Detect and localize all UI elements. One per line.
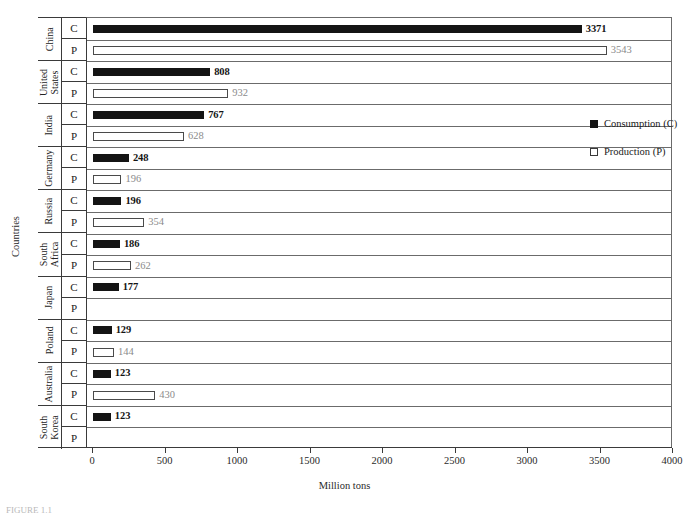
- bar-row-production: 196: [87, 169, 141, 191]
- bar-row-consumption: 248: [87, 147, 148, 169]
- category-label-text: Poland: [44, 327, 55, 355]
- row-separator: [87, 298, 671, 299]
- category-label-text: Japan: [44, 286, 55, 309]
- series-code-column: CP: [62, 406, 86, 449]
- category-row-japan: JapanCP: [38, 277, 86, 320]
- x-axis-tick: [92, 448, 93, 453]
- bar-value-label: 123: [115, 368, 130, 379]
- bar-consumption[interactable]: [93, 111, 204, 119]
- bar-value-label: 767: [208, 110, 223, 121]
- series-code-consumption: C: [62, 406, 86, 428]
- category-label: Australia: [38, 363, 62, 405]
- bar-row-production: 430: [87, 384, 175, 406]
- y-axis-title: Countries: [2, 188, 28, 284]
- bar-row-consumption: 196: [87, 190, 141, 212]
- legend-label-production: Production (P): [604, 146, 666, 157]
- bar-row-consumption: 177: [87, 277, 138, 299]
- category-label-text: South Africa: [39, 242, 60, 268]
- x-axis-tick: [672, 448, 673, 453]
- bar-consumption[interactable]: [93, 240, 120, 248]
- row-separator: [87, 277, 671, 278]
- category-label: Japan: [38, 277, 62, 319]
- category-label: Germany: [38, 147, 62, 189]
- bar-consumption[interactable]: [93, 283, 119, 291]
- category-row-india: IndiaCP: [38, 104, 86, 147]
- x-axis-tick: [237, 448, 238, 453]
- series-code-column: CP: [62, 18, 86, 60]
- category-row-australia: AustraliaCP: [38, 363, 86, 406]
- bar-row-consumption: 186: [87, 234, 139, 256]
- series-code-column: CP: [62, 190, 86, 232]
- bar-production[interactable]: [93, 89, 228, 98]
- category-label-table: ChinaCPUnited StatesCPIndiaCPGermanyCPRu…: [38, 17, 86, 448]
- bar-value-label: 196: [125, 196, 140, 207]
- x-axis-tick: [455, 448, 456, 453]
- bar-consumption[interactable]: [93, 370, 111, 378]
- series-code-production: P: [62, 384, 86, 405]
- x-axis-title: Million tons: [0, 480, 689, 491]
- bar-production[interactable]: [93, 132, 184, 141]
- bar-row-consumption: 3371: [87, 18, 606, 40]
- bar-production[interactable]: [93, 175, 121, 184]
- bar-production[interactable]: [93, 391, 155, 400]
- bar-row-production: 262: [87, 255, 151, 277]
- y-axis-title-text: Countries: [10, 216, 21, 257]
- bar-consumption[interactable]: [93, 68, 210, 76]
- series-code-production: P: [62, 298, 86, 319]
- plot-area: 3371354380893276762824819619635418626217…: [86, 17, 672, 448]
- x-axis-tick-label: 2000: [372, 455, 393, 466]
- bar-value-label: 123: [115, 411, 130, 422]
- bar-consumption[interactable]: [93, 154, 129, 162]
- legend-swatch-filled-icon: [590, 120, 598, 128]
- series-code-production: P: [62, 168, 86, 189]
- bar-value-label: 129: [116, 325, 131, 336]
- bar-production[interactable]: [93, 261, 131, 270]
- bar-row-production: 144: [87, 341, 134, 363]
- bar-value-label: 932: [232, 88, 248, 99]
- series-code-production: P: [62, 255, 86, 276]
- row-separator: [87, 190, 671, 191]
- row-separator: [87, 147, 671, 148]
- series-code-consumption: C: [62, 18, 86, 39]
- category-row-germany: GermanyCP: [38, 147, 86, 190]
- category-row-south-korea: South KoreaCP: [38, 406, 86, 449]
- bar-value-label: 808: [214, 67, 229, 78]
- x-axis-line: [86, 447, 672, 448]
- bar-production[interactable]: [93, 348, 114, 357]
- series-code-consumption: C: [62, 190, 86, 211]
- bar-row-production: [87, 298, 93, 320]
- series-code-production: P: [62, 39, 86, 60]
- category-label: South Korea: [38, 406, 62, 449]
- category-label-text: China: [44, 27, 55, 51]
- series-code-consumption: C: [62, 61, 86, 82]
- legend-swatch-hollow-icon: [590, 148, 598, 156]
- category-label: United States: [38, 61, 62, 103]
- bar-value-label: 3543: [611, 45, 632, 56]
- series-code-consumption: C: [62, 363, 86, 384]
- series-code-production: P: [62, 211, 86, 232]
- bar-row-production: 354: [87, 212, 164, 234]
- bar-production[interactable]: [93, 46, 607, 55]
- category-label: Poland: [38, 320, 62, 362]
- bar-value-label: 177: [123, 282, 138, 293]
- bar-row-consumption: 129: [87, 320, 131, 342]
- bar-row-consumption: 123: [87, 406, 130, 428]
- series-code-consumption: C: [62, 277, 86, 298]
- row-separator: [87, 341, 671, 342]
- category-label: China: [38, 18, 62, 60]
- legend-item-production: Production (P): [590, 146, 677, 157]
- category-row-poland: PolandCP: [38, 320, 86, 363]
- series-code-column: CP: [62, 147, 86, 189]
- x-axis-tick: [527, 448, 528, 453]
- bar-consumption[interactable]: [93, 197, 121, 205]
- bar-consumption[interactable]: [93, 413, 111, 421]
- bar-consumption[interactable]: [93, 326, 112, 334]
- bar-row-consumption: 808: [87, 61, 230, 83]
- figure-container: Countries ChinaCPUnited StatesCPIndiaCPG…: [0, 0, 689, 514]
- bar-production[interactable]: [93, 218, 144, 227]
- x-axis-tick-label: 1000: [227, 455, 248, 466]
- bar-consumption[interactable]: [93, 25, 582, 33]
- bar-value-label: 628: [188, 131, 204, 142]
- category-label: India: [38, 104, 62, 146]
- series-code-consumption: C: [62, 233, 86, 254]
